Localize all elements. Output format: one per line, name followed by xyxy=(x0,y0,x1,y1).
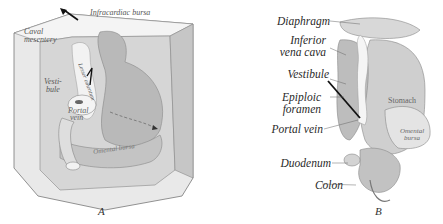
label-colon: Colon xyxy=(315,179,343,191)
label-stomach: Stomach xyxy=(388,97,416,105)
label-portal-vein: Portal vein xyxy=(272,123,323,135)
label-vestibule: Vestibule xyxy=(287,68,329,80)
label-inferior-vena-cava-line2: vena cava xyxy=(280,46,326,58)
label-diaphragm: Diaphragm xyxy=(277,15,330,27)
label-inferior-vena-cava-line1: Inferior xyxy=(290,34,326,46)
label-epiploic-foramen-line1: Epiploic xyxy=(282,91,321,103)
panel-a-dissection-box: Infracardiac bursa Caval mesentery Lesse… xyxy=(0,0,220,224)
panel-letter-b: B xyxy=(375,205,382,217)
label-caval-mesentery-line2: mesentery xyxy=(24,36,56,44)
panel-letter-a: A xyxy=(98,205,105,217)
label-omental-bursa-line2: bursa xyxy=(404,134,420,142)
label-portal-vein-line2: vein xyxy=(70,114,83,122)
label-epiploic-foramen-line2: foramen xyxy=(283,103,321,115)
label-infracardiac-bursa: Infracardiac bursa xyxy=(90,9,150,17)
label-duodenum: Duodenum xyxy=(281,157,331,169)
label-vestibule-line2: bule xyxy=(46,86,60,94)
panel-b-stomach-view: Diaphragm Inferior vena cava Vestibule E… xyxy=(220,0,443,224)
